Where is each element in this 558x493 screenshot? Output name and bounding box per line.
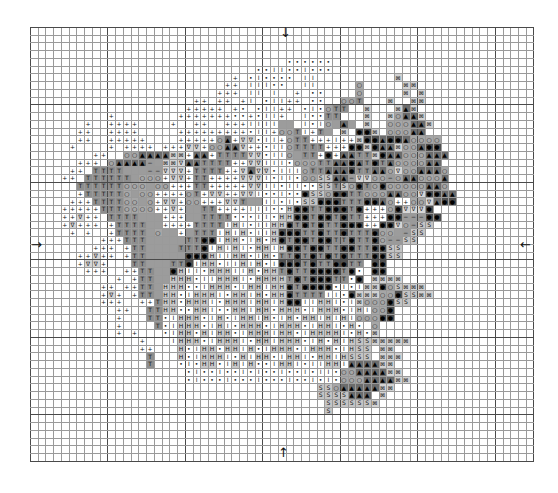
grid-line (30, 112, 534, 113)
grid-line (30, 58, 534, 59)
grid-line (30, 329, 534, 330)
grid-line (30, 151, 534, 152)
grid-line (30, 430, 534, 431)
grid-line (30, 42, 534, 43)
grid-line (30, 197, 534, 198)
grid-line (30, 143, 534, 144)
right-center-arrow-icon: ← (520, 238, 531, 251)
left-center-arrow-icon: → (31, 238, 42, 251)
grid-line (30, 81, 534, 82)
grid-line (30, 275, 534, 276)
grid-line (30, 205, 534, 206)
grid-line (30, 120, 534, 121)
grid-line (30, 314, 534, 315)
major-grid-line (30, 461, 534, 462)
grid-line (30, 376, 534, 377)
grid-line (30, 360, 534, 361)
grid-line (30, 345, 534, 346)
major-grid-line (30, 337, 534, 338)
grid-line (30, 236, 534, 237)
grid-line (30, 159, 534, 160)
major-grid-line (30, 259, 534, 260)
cross-stitch-chart: ••••••••II••I•••+•I••••II⊠++III••II○⊠⊠++… (30, 27, 534, 461)
grid-line (30, 298, 534, 299)
grid-line (30, 283, 534, 284)
grid-line (30, 89, 534, 90)
grid-line (30, 399, 534, 400)
grid-line (30, 391, 534, 392)
grid-line (30, 383, 534, 384)
grid-line (30, 174, 534, 175)
grid-line (30, 66, 534, 67)
grid-line (30, 306, 534, 307)
grid-line (30, 97, 534, 98)
grid-line (30, 290, 534, 291)
grid-line (30, 267, 534, 268)
grid-line (30, 128, 534, 129)
grid-line (30, 213, 534, 214)
grid-line (30, 252, 534, 253)
top-center-arrow-icon: ↓ (280, 26, 291, 39)
grid-line (30, 352, 534, 353)
major-grid-line (30, 414, 534, 415)
grid-line (30, 407, 534, 408)
grid-line (30, 438, 534, 439)
grid-line (30, 135, 534, 136)
grid-line (30, 73, 534, 74)
grid-line (30, 422, 534, 423)
grid-line (30, 50, 534, 51)
grid-line (30, 228, 534, 229)
major-grid-line (30, 182, 534, 183)
grid-line (30, 190, 534, 191)
grid-line (30, 321, 534, 322)
grid-line (30, 166, 534, 167)
grid-line (30, 368, 534, 369)
major-grid-line (30, 104, 534, 105)
grid-line (30, 221, 534, 222)
bottom-center-arrow-icon: ↑ (278, 446, 289, 459)
grid-line (30, 244, 534, 245)
